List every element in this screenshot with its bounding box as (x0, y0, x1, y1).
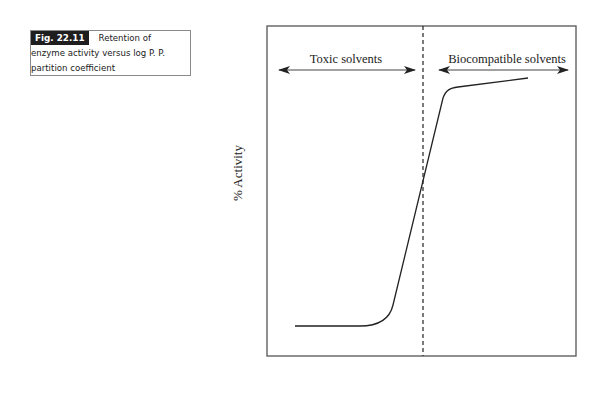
plot-frame (267, 26, 576, 356)
toxic-solvents-label: Toxic solvents (301, 52, 391, 67)
y-axis-label: % Activity (230, 145, 246, 201)
biocompatible-solvents-label: Biocompatible solvents (448, 52, 566, 67)
activity-curve (295, 78, 528, 326)
